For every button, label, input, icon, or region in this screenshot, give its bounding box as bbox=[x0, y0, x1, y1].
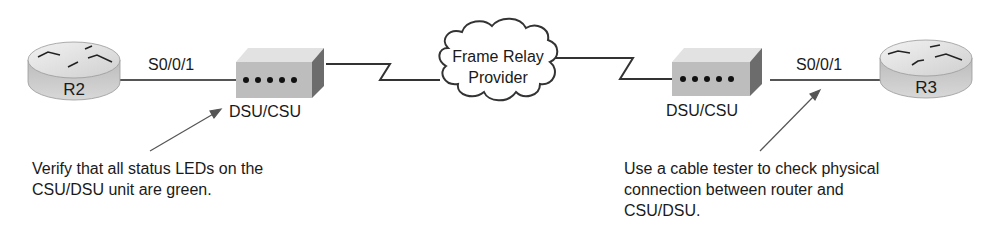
dsu-csu-right-label: DSU/CSU bbox=[666, 102, 738, 120]
serial-link-right bbox=[546, 58, 672, 79]
router-r2-label: R2 bbox=[54, 80, 94, 100]
note-right-line3: CSU/DSU. bbox=[624, 200, 879, 221]
cloud-label-line1: Frame Relay bbox=[438, 46, 558, 67]
interface-r3-label: S0/0/1 bbox=[796, 56, 842, 74]
dsu-csu-left-label: DSU/CSU bbox=[229, 103, 301, 121]
router-r3-label: R3 bbox=[906, 78, 946, 98]
note-right: Use a cable tester to check physical con… bbox=[624, 158, 879, 221]
note-right-line1: Use a cable tester to check physical bbox=[624, 158, 879, 179]
serial-link-left bbox=[326, 64, 440, 80]
note-right-line2: connection between router and bbox=[624, 179, 879, 200]
dsu-csu-left-icon[interactable] bbox=[236, 48, 324, 98]
dsu-csu-right-icon[interactable] bbox=[672, 48, 762, 96]
note-left: Verify that all status LEDs on the CSU/D… bbox=[32, 158, 263, 200]
cloud-label-line2: Provider bbox=[438, 67, 558, 88]
note-left-line2: CSU/DSU unit are green. bbox=[32, 179, 263, 200]
note-left-line1: Verify that all status LEDs on the bbox=[32, 158, 263, 179]
cloud-label: Frame Relay Provider bbox=[438, 46, 558, 88]
callout-arrow-right bbox=[760, 90, 820, 151]
interface-r2-label: S0/0/1 bbox=[148, 56, 194, 74]
callout-arrow-left bbox=[150, 109, 221, 151]
